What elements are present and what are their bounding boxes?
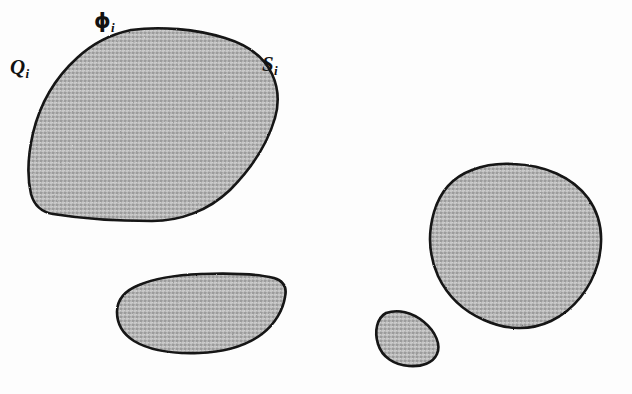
label-phi-base: ϕ: [94, 9, 111, 33]
label-phi-i: ϕi: [94, 11, 114, 32]
label-q-subscript: i: [25, 66, 29, 81]
label-s-base: S: [262, 52, 274, 76]
label-q-i: Qi: [10, 57, 29, 78]
label-s-subscript: i: [274, 63, 278, 78]
figure-canvas: [0, 0, 632, 394]
label-phi-subscript: i: [111, 20, 115, 35]
label-q-base: Q: [10, 55, 25, 79]
label-s-i: Si: [262, 54, 277, 75]
figure-container: Qi ϕi Si: [0, 0, 632, 394]
